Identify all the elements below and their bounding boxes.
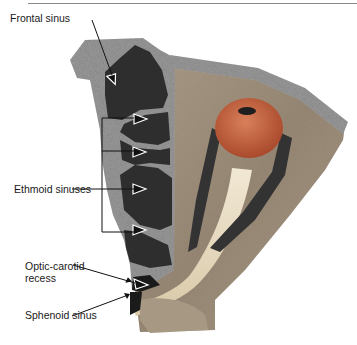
eye-globe <box>215 98 283 158</box>
ethmoid-sinuses-label: Ethmoid sinuses <box>14 183 91 195</box>
sinus-anatomy-figure <box>0 0 357 345</box>
frontal-sinus-label: Frontal sinus <box>10 12 70 24</box>
optic-carotid-recess-label: Optic-carotid <box>25 260 85 272</box>
optic-carotid-recess-label-line2: recess <box>25 272 56 284</box>
sphenoid-sinus-label: Sphenoid sinus <box>25 309 97 321</box>
